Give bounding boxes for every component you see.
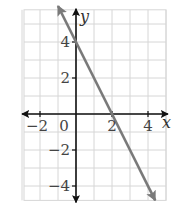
line-y-equals-neg2x-plus-4 — [58, 6, 155, 200]
x-tick-label: 0 — [59, 117, 69, 135]
x-tick-label: 2 — [107, 117, 117, 135]
coordinate-plane: −202442−2−4xy — [0, 0, 177, 216]
y-axis-label: y — [79, 7, 90, 26]
tick-labels: −202442−2−4xy — [26, 7, 171, 195]
x-axis-label: x — [162, 113, 171, 132]
x-tick-label: −2 — [26, 117, 48, 135]
y-tick-label: 2 — [60, 69, 70, 87]
grid-border — [24, 10, 166, 201]
y-tick-label: −4 — [48, 177, 70, 195]
axes — [22, 9, 168, 203]
line-series — [58, 6, 155, 200]
y-tick-label: 4 — [60, 33, 70, 51]
x-tick-label: 4 — [143, 117, 153, 135]
grid — [22, 10, 166, 201]
y-tick-label: −2 — [48, 141, 70, 159]
